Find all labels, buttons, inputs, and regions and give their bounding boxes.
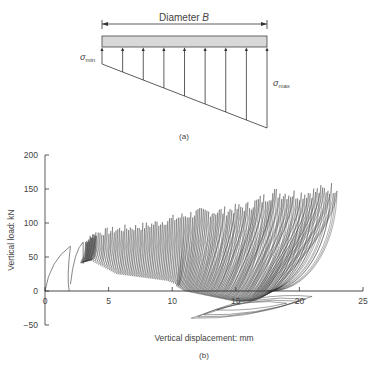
y-tick-label: 0 <box>33 286 38 296</box>
y-tick-label: 50 <box>29 252 39 262</box>
x-tick-label: 25 <box>358 296 368 306</box>
pressure-arrows <box>100 48 268 129</box>
sigma-min-label: σmin <box>80 52 95 63</box>
x-tick-label: 10 <box>167 296 177 306</box>
arrowhead-left-icon <box>102 22 108 26</box>
figure: Diameter B σmin σmax (a) −50050100150200… <box>0 0 377 370</box>
y-tick-label: 100 <box>24 218 38 228</box>
caption-a: (a) <box>179 132 189 141</box>
y-tick-label: 150 <box>24 184 38 194</box>
x-axis-label: Vertical displacement: mm <box>154 333 253 343</box>
hysteresis-loops <box>45 183 337 318</box>
pressure-diagram: Diameter B σmin σmax (a) <box>80 12 290 141</box>
hysteresis-chart: −50050100150200 0510152025 Vertical load… <box>6 150 368 360</box>
x-tick-label: 20 <box>295 296 305 306</box>
y-tick-label: 200 <box>24 150 38 160</box>
sigma-max-label: σmax <box>273 78 290 89</box>
footing-bar <box>102 36 267 47</box>
caption-b: (b) <box>199 351 209 360</box>
y-tick-label: −50 <box>24 320 39 330</box>
dimension-label: Diameter B <box>159 12 209 23</box>
y-axis-label: Vertical load: kN <box>6 209 16 270</box>
x-tick-label: 5 <box>106 296 111 306</box>
arrowhead-right-icon <box>261 22 267 26</box>
x-tick-label: 15 <box>231 296 241 306</box>
x-tick-label: 0 <box>43 296 48 306</box>
